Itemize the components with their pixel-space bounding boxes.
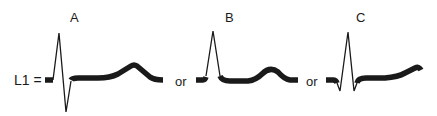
waveform-c-baseline-pre — [326, 80, 337, 83]
panel-label-c: C — [356, 10, 365, 25]
lead-label: L1 = — [14, 72, 42, 88]
waveform-a: A — [45, 10, 163, 112]
panel-label-b: B — [225, 10, 234, 25]
separator-or-1: or — [175, 74, 187, 89]
waveform-c-qrs-complex — [337, 32, 357, 91]
waveform-c: C — [326, 10, 421, 91]
waveform-a-st-t-segment — [71, 65, 163, 80]
waveform-b: B — [196, 10, 298, 81]
waveform-b-baseline-pre — [196, 77, 206, 80]
separator-or-2: or — [306, 74, 318, 89]
ecg-diagram: L1 = A or B or C — [0, 0, 437, 116]
waveform-c-st-t-segment — [357, 67, 421, 83]
waveform-b-st-t-segment — [220, 69, 298, 81]
waveform-a-qrs-complex — [53, 33, 71, 112]
panel-label-a: A — [70, 10, 79, 25]
waveform-b-qrs-complex — [206, 31, 220, 76]
